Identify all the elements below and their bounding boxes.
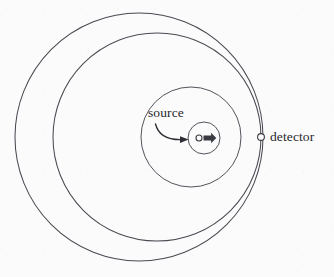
third-circle bbox=[141, 87, 241, 187]
source-particle-icon bbox=[196, 135, 202, 141]
source-arrow-icon bbox=[204, 133, 217, 143]
source-label: source bbox=[148, 106, 184, 120]
second-circle bbox=[53, 33, 261, 241]
detector-label: detector bbox=[270, 130, 314, 144]
figure-root: source detector bbox=[0, 0, 334, 277]
source-pointer-arrow bbox=[156, 124, 189, 143]
detector-dot-icon bbox=[258, 134, 265, 141]
outer-circle bbox=[15, 13, 263, 261]
